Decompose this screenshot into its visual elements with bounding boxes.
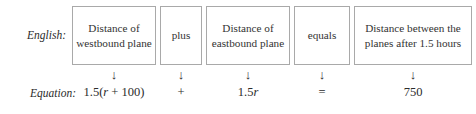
down-arrow-icon-column-2: ↓	[171, 68, 191, 81]
phrase-boxes-row: Distance of westbound plane plus Distanc…	[0, 0, 476, 68]
equation-row-label: Equation:	[0, 87, 76, 99]
phrase-box-plus: plus	[160, 6, 202, 65]
phrase-box-equals: equals	[294, 6, 350, 65]
equation-term-westbound: 1.5(r + 100)	[74, 86, 154, 99]
english-to-equation-figure: English: Equation: Distance of westbound…	[0, 0, 476, 114]
phrase-box-westbound-distance: Distance of westbound plane	[72, 6, 156, 65]
equation-operator-plus-symbol: +	[177, 85, 184, 99]
phrase-box-eastbound-distance: Distance of eastbound plane	[206, 6, 290, 65]
phrase-box-total-distance: Distance between the planes after 1.5 ho…	[354, 6, 472, 65]
equation-term-eastbound: 1.5r	[208, 86, 288, 99]
equation-term-westbound-suffix: + 100)	[108, 85, 144, 99]
equation-term-westbound-prefix: 1.5(	[84, 85, 104, 99]
equation-term-total-value: 750	[404, 85, 423, 99]
equation-operator-equals-symbol: =	[318, 85, 325, 99]
equation-operator-plus: +	[161, 86, 201, 99]
down-arrow-icon-column-3: ↓	[238, 68, 258, 81]
equation-term-eastbound-variable: r	[253, 85, 258, 99]
equation-term-eastbound-prefix: 1.5	[238, 85, 254, 99]
equation-operator-equals: =	[294, 86, 350, 99]
down-arrow-icon-column-1: ↓	[104, 68, 124, 81]
down-arrow-icon-column-4: ↓	[312, 68, 332, 81]
equation-term-total: 750	[354, 86, 472, 99]
down-arrow-icon-column-5: ↓	[403, 68, 423, 81]
